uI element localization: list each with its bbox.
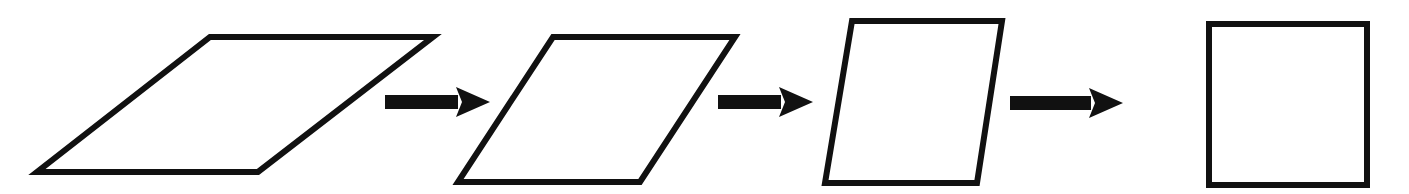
parallelogram-3-shape [825,21,1002,183]
arrow-1-right-arrow-icon [385,87,490,117]
arrow-shaft [718,95,781,109]
arrow-shaft [385,95,458,109]
arrows-group [385,87,1123,118]
arrow-head [456,87,490,117]
transformation-diagram [0,0,1409,194]
arrow-head [1089,88,1123,118]
square-shape [1209,24,1367,185]
arrow-shaft [1010,96,1091,110]
parallelogram-1-shape [37,37,433,172]
arrow-3-right-arrow-icon [1010,88,1123,118]
parallelogram-2-shape [458,37,735,182]
arrow-2-right-arrow-icon [718,87,813,117]
arrow-head [779,87,813,117]
shapes-group [37,21,1367,185]
